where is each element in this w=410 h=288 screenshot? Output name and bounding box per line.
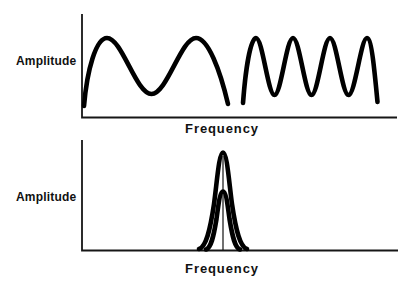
low-frequency-wave-curve: [84, 38, 228, 106]
high-frequency-wave-curve: [243, 38, 378, 103]
diagram-canvas: [0, 0, 410, 288]
top-chart-amplitude-axis-label: Amplitude: [16, 54, 80, 68]
bottom-chart-amplitude-axis-label: Amplitude: [16, 190, 80, 204]
bottom-chart-frequency-axis-label: Frequency: [82, 261, 362, 276]
bandwidth-diagram: Amplitude Frequency Amplitude Frequency: [0, 0, 410, 288]
top-chart-frequency-axis-label: Frequency: [82, 121, 362, 136]
